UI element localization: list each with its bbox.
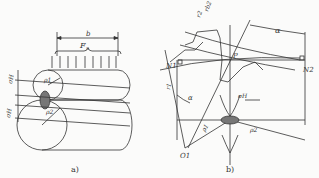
label-N2: N2 xyxy=(302,66,314,74)
label-rho2-b: ρ2 xyxy=(249,126,258,134)
label-P: P xyxy=(232,52,238,60)
force-arrows xyxy=(52,56,116,68)
label-force-sub: n xyxy=(86,45,89,51)
label-sigma-h-top: σH xyxy=(6,73,15,84)
label-sigma-h: σH xyxy=(238,92,248,99)
diagram-svg: b F n ρ1 ρ2 σH σH a) xyxy=(0,0,319,178)
label-r1: r1 xyxy=(164,82,172,90)
figure-a: b F n ρ1 ρ2 σH σH a) xyxy=(4,30,132,174)
caption-b: b) xyxy=(226,165,234,174)
label-b: b xyxy=(86,30,91,38)
label-O1: O1 xyxy=(180,152,190,160)
label-rho1: ρ1 xyxy=(43,76,51,84)
label-N1: N1 xyxy=(165,62,177,70)
label-alpha-top: α xyxy=(275,26,281,35)
label-rho1-b: ρ1 xyxy=(199,123,210,134)
label-sigma-h-bottom: σH xyxy=(4,107,13,118)
label-alpha-left: α xyxy=(188,94,193,102)
label-rho2: ρ2 xyxy=(45,108,54,116)
figure-b: r2 rb2 α P N1 N2 r1 α σH ρ1 ρ2 O1 b) xyxy=(160,0,314,174)
caption-a: a) xyxy=(71,165,79,174)
label-rb2: rb2 xyxy=(202,0,212,12)
label-force: F xyxy=(79,41,86,50)
contact-stress-diagram: b F n ρ1 ρ2 σH σH a) xyxy=(0,0,319,178)
